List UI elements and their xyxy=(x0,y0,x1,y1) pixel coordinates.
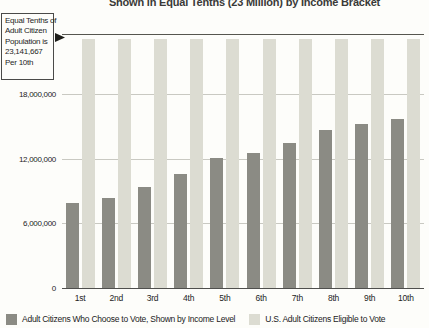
bar-eligible[interactable] xyxy=(154,39,167,288)
annotation-line-2: Adult Citizen xyxy=(5,26,50,36)
bar-voters[interactable] xyxy=(66,203,79,288)
legend-label-eligible: U.S. Adult Citizens Eligible to Vote xyxy=(265,314,385,324)
bar-eligible[interactable] xyxy=(371,39,384,288)
bar-group xyxy=(352,34,388,288)
bar-voters[interactable] xyxy=(247,153,260,288)
y-axis-tick-label: 12,000,000 xyxy=(19,154,56,163)
annotation-line-1: Equal Tenths of xyxy=(5,16,50,26)
x-axis-tick-label: 6th xyxy=(243,293,279,303)
chart-legend: Adult Citizens Who Choose to Vote, Shown… xyxy=(0,311,429,327)
bar-group xyxy=(243,34,279,288)
bar-eligible[interactable] xyxy=(299,39,312,288)
bar-group xyxy=(171,34,207,288)
bar-groups xyxy=(62,34,424,288)
x-axis-line xyxy=(62,288,424,289)
bar-group xyxy=(134,34,170,288)
bar-group xyxy=(207,34,243,288)
y-axis-tick-label: 0 xyxy=(52,284,56,293)
bar-voters[interactable] xyxy=(174,174,187,288)
chart-title: Shown in Equal Tenths (23 Million) by In… xyxy=(60,0,429,9)
bar-eligible[interactable] xyxy=(118,39,131,288)
legend-item-voters: Adult Citizens Who Choose to Vote, Shown… xyxy=(6,314,235,325)
bar-group xyxy=(388,34,424,288)
chart-container: Shown in Equal Tenths (23 Million) by In… xyxy=(0,0,429,328)
x-axis-tick-label: 8th xyxy=(315,293,351,303)
bar-eligible[interactable] xyxy=(190,39,203,288)
bar-voters[interactable] xyxy=(138,187,151,288)
legend-swatch-icon-voters xyxy=(6,314,17,325)
x-axis-labels: 1st2nd3rd4th5th6th7th8th9th10th xyxy=(62,293,424,303)
legend-label-voters: Adult Citizens Who Choose to Vote, Shown… xyxy=(22,314,235,324)
bar-group xyxy=(315,34,351,288)
bar-group xyxy=(98,34,134,288)
annotation-arrow-icon xyxy=(55,33,57,35)
bar-voters[interactable] xyxy=(283,143,296,288)
x-axis-tick-label: 2nd xyxy=(98,293,134,303)
bar-voters[interactable] xyxy=(210,158,223,288)
x-axis-tick-label: 7th xyxy=(279,293,315,303)
bar-eligible[interactable] xyxy=(82,39,95,288)
annotation-line-4: 23,141,667 xyxy=(5,47,50,57)
x-axis-tick-label: 4th xyxy=(171,293,207,303)
plot-area: 06,000,00012,000,00018,000,000 xyxy=(62,34,424,288)
legend-item-eligible: U.S. Adult Citizens Eligible to Vote xyxy=(249,314,385,325)
bar-group xyxy=(62,34,98,288)
y-axis-tick-label: 18,000,000 xyxy=(19,90,56,99)
bar-eligible[interactable] xyxy=(335,39,348,288)
legend-swatch-icon-eligible xyxy=(249,314,260,325)
x-axis-tick-label: 10th xyxy=(388,293,424,303)
bar-eligible[interactable] xyxy=(407,39,420,288)
y-axis-tick-label: 6,000,000 xyxy=(23,219,56,228)
x-axis-tick-label: 1st xyxy=(62,293,98,303)
x-axis-tick-label: 5th xyxy=(207,293,243,303)
bar-voters[interactable] xyxy=(102,198,115,288)
bar-voters[interactable] xyxy=(391,119,404,288)
x-axis-tick-label: 3rd xyxy=(134,293,170,303)
annotation-line-3: Population is xyxy=(5,37,50,47)
bar-voters[interactable] xyxy=(319,130,332,288)
bar-eligible[interactable] xyxy=(226,39,239,288)
bar-group xyxy=(279,34,315,288)
bar-voters[interactable] xyxy=(355,124,368,288)
annotation-callout: Equal Tenths of Adult Citizen Population… xyxy=(1,13,54,80)
bar-eligible[interactable] xyxy=(263,39,276,288)
x-axis-tick-label: 9th xyxy=(352,293,388,303)
annotation-line-5: Per 10th xyxy=(5,58,50,68)
